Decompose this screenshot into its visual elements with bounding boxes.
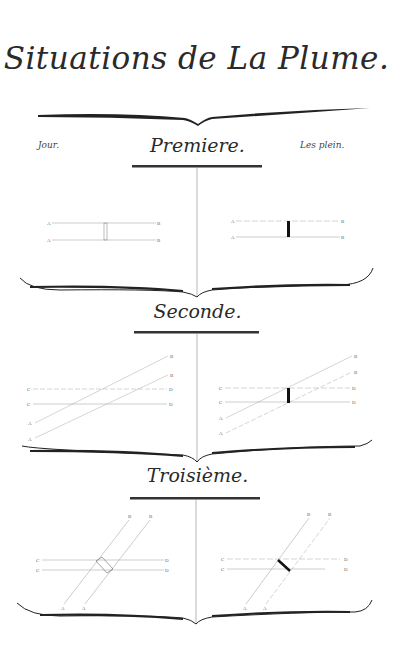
svg-text:D: D: [352, 386, 356, 391]
svg-text:A: A: [28, 437, 32, 442]
figure-2-left: C D C D A B A B: [27, 354, 174, 442]
svg-text:B: B: [149, 514, 153, 519]
svg-text:A: A: [231, 219, 235, 224]
svg-text:A: A: [219, 431, 223, 436]
figure-3-right: C D C D A B A B: [221, 512, 348, 611]
title-flourish: [38, 108, 370, 126]
svg-text:C: C: [219, 386, 223, 391]
svg-text:C: C: [27, 402, 31, 407]
svg-text:B: B: [128, 514, 132, 519]
svg-text:B: B: [170, 354, 174, 359]
svg-text:B: B: [157, 238, 161, 243]
svg-text:B: B: [170, 373, 174, 378]
svg-text:A: A: [82, 606, 86, 611]
svg-text:C: C: [36, 558, 40, 563]
svg-text:A: A: [47, 238, 51, 243]
svg-text:C: C: [36, 568, 40, 573]
svg-text:A: A: [219, 416, 223, 421]
svg-text:B: B: [328, 512, 332, 517]
svg-text:D: D: [344, 557, 348, 562]
svg-text:B: B: [354, 354, 358, 359]
svg-text:B: B: [354, 370, 358, 375]
svg-text:D: D: [165, 568, 169, 573]
section-3-frame: [17, 497, 372, 624]
svg-text:B: B: [307, 512, 311, 517]
svg-text:A: A: [28, 421, 32, 426]
svg-text:D: D: [169, 402, 173, 407]
figure-1-right: A B A B: [231, 219, 345, 240]
svg-text:A: A: [61, 606, 65, 611]
figure-3-left: C D C D A B A B: [36, 514, 169, 611]
svg-text:C: C: [27, 387, 31, 392]
section-1-frame: [20, 165, 373, 297]
engraving-figures: A B A B A B A B C D C D A B A B: [0, 0, 393, 655]
svg-text:D: D: [352, 400, 356, 405]
figure-1-left: A B A B: [47, 221, 161, 243]
svg-text:B: B: [341, 219, 345, 224]
svg-text:B: B: [157, 221, 161, 226]
figure-2-right: C D C D A B A B: [219, 354, 358, 436]
svg-text:A: A: [243, 606, 247, 611]
svg-text:B: B: [341, 235, 345, 240]
svg-text:A: A: [263, 606, 267, 611]
svg-text:C: C: [219, 400, 223, 405]
svg-text:A: A: [47, 221, 51, 226]
svg-text:C: C: [221, 567, 225, 572]
svg-text:D: D: [169, 387, 173, 392]
svg-text:D: D: [165, 558, 169, 563]
section-2-frame: [22, 331, 372, 462]
svg-text:D: D: [344, 567, 348, 572]
svg-text:C: C: [221, 557, 225, 562]
svg-text:A: A: [231, 235, 235, 240]
